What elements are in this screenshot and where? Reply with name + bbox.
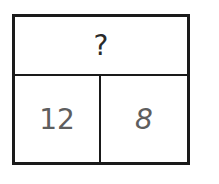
- part-cell-left: 12: [15, 76, 99, 162]
- whole-cell: ?: [15, 17, 187, 74]
- part-whole-box: ? 12 8: [12, 14, 190, 165]
- part-cell-right: 8: [101, 76, 187, 162]
